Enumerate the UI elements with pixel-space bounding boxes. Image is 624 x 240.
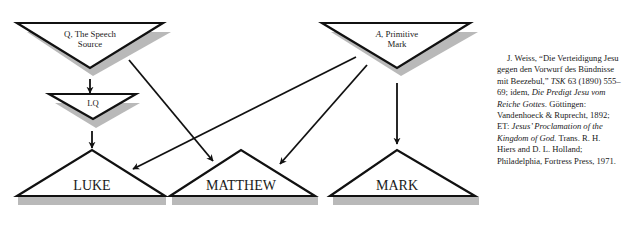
lq-label: LQ — [87, 98, 99, 108]
arrow-a-to-matthew — [280, 65, 367, 164]
matthew-shadow — [172, 197, 318, 205]
mark-shadow — [333, 197, 479, 205]
mark-triangle: MARK — [330, 150, 475, 196]
a-label-line1: A, Primitive — [375, 29, 419, 39]
a-label-line1-rest: , Primitive — [381, 29, 418, 39]
bibliographic-note: J. Weiss, “Die Verteidigung Jesu gegen d… — [497, 53, 621, 167]
note-journal: TSK — [551, 76, 566, 86]
luke-shadow — [18, 197, 166, 205]
luke-label: LUKE — [73, 178, 110, 193]
arrow-q-to-matthew — [129, 60, 213, 161]
q-label-line1: Q, The Speech — [64, 29, 116, 39]
luke-triangle: LUKE — [17, 150, 165, 196]
a-label-line2: Mark — [387, 39, 407, 49]
q-label-line2: Source — [78, 39, 103, 49]
a-source-triangle: A, Primitive Mark — [322, 23, 478, 76]
matthew-label: MATTHEW — [206, 178, 277, 193]
mark-label: MARK — [376, 178, 418, 193]
q-source-triangle: Q, The Speech Source — [17, 23, 171, 76]
lq-source-triangle: LQ — [49, 94, 140, 128]
matthew-triangle: MATTHEW — [170, 150, 315, 196]
